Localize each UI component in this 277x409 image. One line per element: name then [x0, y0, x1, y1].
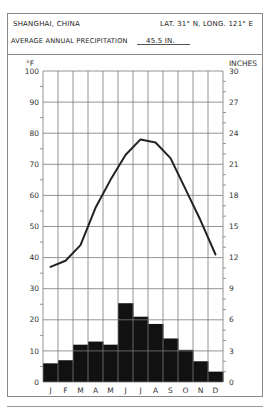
precip-bar — [103, 345, 119, 382]
month-label: F — [63, 386, 67, 395]
precip-bar — [118, 303, 134, 382]
precip-bar — [208, 372, 224, 382]
month-label: J — [48, 386, 51, 395]
precip-bar — [178, 350, 194, 382]
right-axis-label: INCHES — [229, 59, 257, 68]
precip-bar — [58, 360, 74, 382]
right-axis-tick-label: 18 — [229, 191, 239, 200]
right-axis-tick-label: 15 — [229, 222, 239, 231]
month-label: M — [107, 386, 113, 395]
left-axis-tick-label: 90 — [29, 98, 39, 107]
left-axis-tick-label: 0 — [34, 378, 39, 387]
right-axis-tick-label: 0 — [229, 378, 234, 387]
precip-bar — [88, 342, 104, 382]
month-label: A — [153, 386, 159, 395]
month-label: A — [93, 386, 99, 395]
precip-bar — [43, 363, 59, 382]
left-axis-tick-label: 10 — [29, 347, 39, 356]
right-axis-tick-label: 21 — [229, 160, 239, 169]
precip-bar — [193, 361, 209, 382]
month-label: D — [213, 386, 219, 395]
left-axis-tick-label: 60 — [29, 191, 39, 200]
month-label: J — [123, 386, 126, 395]
right-axis-tick-label: 3 — [229, 347, 234, 356]
right-axis-tick-label: 9 — [229, 284, 234, 293]
left-axis-tick-label: 40 — [29, 253, 39, 262]
month-label: J — [138, 386, 141, 395]
right-axis-tick-label: 6 — [229, 315, 234, 324]
left-axis-tick-label: 30 — [29, 284, 39, 293]
precip-bar — [133, 317, 149, 382]
right-axis-tick-label: 27 — [229, 98, 239, 107]
month-label: N — [198, 386, 204, 395]
month-label: O — [183, 386, 189, 395]
precip-bar — [73, 345, 89, 382]
left-axis-tick-label: 50 — [29, 222, 39, 231]
right-axis-tick-label: 12 — [229, 253, 239, 262]
left-axis-tick-label: 80 — [29, 129, 39, 138]
month-label: S — [168, 386, 173, 395]
precip-bar — [163, 338, 179, 382]
precip-bar — [148, 324, 164, 382]
left-axis-tick-label: 20 — [29, 315, 39, 324]
climate-chart: 0102030405060708090100036912151821242730… — [0, 0, 277, 409]
month-label: M — [77, 386, 83, 395]
right-axis-tick-label: 24 — [229, 129, 239, 138]
left-axis-tick-label: 70 — [29, 160, 39, 169]
left-axis-label: °F — [26, 59, 34, 68]
